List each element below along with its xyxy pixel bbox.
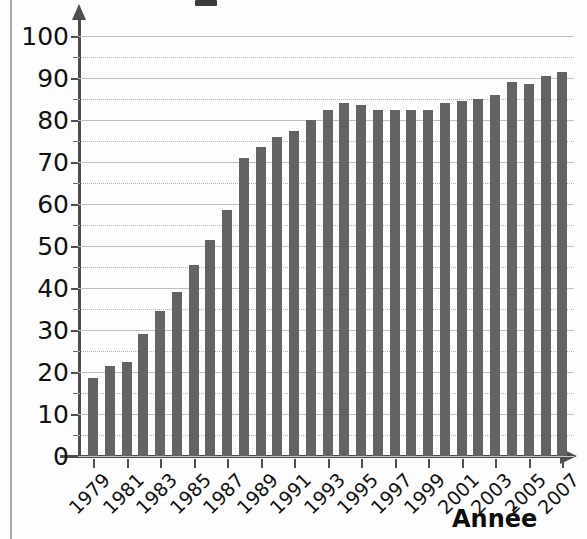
value-axis-label: 30 bbox=[37, 318, 69, 343]
category-axis-tick bbox=[395, 459, 397, 468]
value-axis-tick bbox=[73, 183, 78, 184]
value-axis-tick bbox=[73, 309, 78, 310]
gridline-minor bbox=[78, 57, 574, 58]
value-axis-tick bbox=[71, 288, 78, 290]
value-axis-label: 90 bbox=[37, 66, 69, 91]
value-axis-tick bbox=[71, 120, 78, 122]
bar bbox=[172, 292, 182, 456]
category-axis-tick bbox=[428, 459, 430, 468]
value-axis-tick bbox=[71, 414, 78, 416]
value-axis-tick bbox=[71, 330, 78, 332]
value-axis-tick bbox=[73, 351, 78, 352]
category-axis-tick bbox=[194, 459, 196, 468]
value-axis-label: 40 bbox=[37, 276, 69, 301]
bar bbox=[390, 110, 400, 457]
value-axis-label: 100 bbox=[21, 24, 69, 49]
bar bbox=[138, 334, 148, 456]
bar bbox=[289, 131, 299, 457]
value-axis-tick bbox=[73, 141, 78, 142]
bar bbox=[88, 378, 98, 456]
bar bbox=[541, 76, 551, 456]
value-axis-label: 70 bbox=[37, 150, 69, 175]
value-axis-tick bbox=[73, 435, 78, 436]
bar bbox=[423, 110, 433, 457]
value-axis-label: 10 bbox=[37, 402, 69, 427]
chart-page: 0102030405060708090100 Année 19791981198… bbox=[0, 0, 587, 539]
category-axis-tick bbox=[127, 459, 129, 468]
bar bbox=[272, 137, 282, 456]
value-axis-label: 20 bbox=[37, 360, 69, 385]
category-axis-tick bbox=[529, 459, 531, 468]
value-axis-tick bbox=[73, 267, 78, 268]
bar bbox=[239, 158, 249, 456]
value-axis-tick bbox=[71, 36, 78, 38]
bar bbox=[373, 110, 383, 457]
value-axis-tick bbox=[71, 456, 78, 458]
plot-area: 0102030405060708090100 bbox=[78, 36, 574, 456]
bar bbox=[189, 265, 199, 456]
category-axis-tick bbox=[227, 459, 229, 468]
value-axis-tick bbox=[73, 225, 78, 226]
cropped-title-fragment bbox=[195, 0, 217, 6]
value-axis-tick bbox=[71, 372, 78, 374]
bar bbox=[323, 110, 333, 457]
category-axis-tick bbox=[160, 459, 162, 468]
bar bbox=[122, 362, 132, 457]
value-axis-tick bbox=[71, 78, 78, 80]
category-axis-tick bbox=[261, 459, 263, 468]
value-axis-tick bbox=[73, 99, 78, 100]
page-left-border bbox=[10, 0, 12, 539]
gridline-major bbox=[78, 78, 574, 79]
value-axis-tick bbox=[71, 204, 78, 206]
bar bbox=[105, 366, 115, 456]
value-axis-tick bbox=[73, 393, 78, 394]
value-axis-tick bbox=[73, 57, 78, 58]
category-axis-tick bbox=[328, 459, 330, 468]
category-axis-tick bbox=[294, 459, 296, 468]
bar bbox=[440, 103, 450, 456]
value-axis-label: 60 bbox=[37, 192, 69, 217]
category-axis-tick bbox=[93, 459, 95, 468]
plot-inner: 0102030405060708090100 bbox=[78, 36, 574, 456]
bar bbox=[557, 72, 567, 456]
value-axis-tick bbox=[71, 162, 78, 164]
category-axis-tick bbox=[462, 459, 464, 468]
bar bbox=[306, 120, 316, 456]
category-axis-tick bbox=[562, 459, 564, 468]
value-axis-label: 80 bbox=[37, 108, 69, 133]
value-axis-tick bbox=[71, 246, 78, 248]
value-axis-label: 0 bbox=[53, 444, 69, 469]
category-axis-tick bbox=[495, 459, 497, 468]
bar bbox=[356, 105, 366, 456]
bar bbox=[339, 103, 349, 456]
bar bbox=[222, 210, 232, 456]
bar bbox=[205, 240, 215, 456]
gridline-major bbox=[78, 36, 574, 37]
bar bbox=[473, 99, 483, 456]
bar bbox=[256, 147, 266, 456]
bar bbox=[406, 110, 416, 457]
bar bbox=[490, 95, 500, 456]
bar bbox=[507, 82, 517, 456]
value-axis-label: 50 bbox=[37, 234, 69, 259]
bar bbox=[524, 84, 534, 456]
bar bbox=[155, 311, 165, 456]
gridline-major bbox=[78, 456, 574, 457]
category-axis-tick bbox=[361, 459, 363, 468]
bar bbox=[457, 101, 467, 456]
